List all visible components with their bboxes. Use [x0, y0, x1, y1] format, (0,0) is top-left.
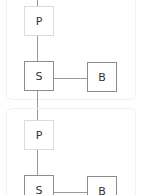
node-p-1[interactable]: P — [24, 6, 54, 36]
node-p-2-label: P — [36, 129, 43, 142]
node-s-2[interactable]: S — [24, 175, 54, 195]
node-b-2[interactable]: B — [87, 176, 117, 195]
diagram-canvas: P S B P S B — [0, 0, 156, 195]
node-p-1-label: P — [36, 15, 43, 28]
node-b-1-label: B — [98, 71, 106, 84]
connector-p-to-s-1 — [37, 36, 38, 61]
connector-s-to-b-1 — [54, 78, 88, 79]
node-s-1-label: S — [36, 70, 43, 83]
node-p-2[interactable]: P — [24, 120, 54, 150]
node-b-1[interactable]: B — [87, 62, 117, 92]
node-s-2-label: S — [36, 184, 43, 196]
connector-s-to-b-2 — [54, 192, 88, 193]
node-b-2-label: B — [98, 185, 106, 196]
connector-p-to-s-2 — [37, 150, 38, 175]
node-s-1[interactable]: S — [24, 61, 54, 91]
